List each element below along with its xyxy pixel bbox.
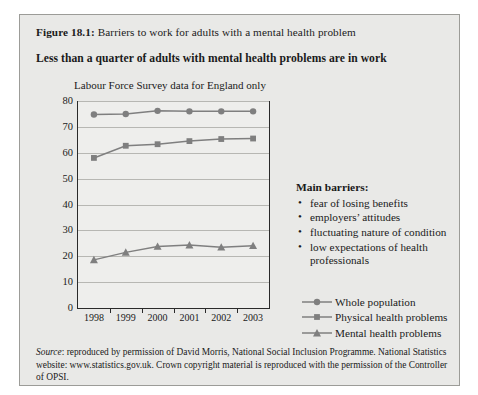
data-point-marker: [250, 108, 256, 114]
x-axis-tick: [237, 308, 238, 313]
legend-label: Whole population: [335, 296, 415, 308]
chart-legend: Whole populationPhysical health problems…: [302, 294, 478, 341]
y-axis-tick-label: 70: [63, 122, 74, 133]
barrier-item-0: fear of losing benefits: [296, 197, 476, 211]
data-point-marker: [314, 314, 320, 320]
x-axis-tick: [142, 308, 143, 313]
x-axis-tick-label: 2002: [211, 313, 231, 323]
series-physical-health-problems: [91, 136, 256, 161]
data-point-marker: [123, 111, 129, 117]
y-axis-tick-label: 40: [63, 199, 74, 210]
data-point-marker: [314, 299, 320, 305]
x-axis-tick-label: 1998: [84, 313, 104, 323]
data-point-marker: [123, 143, 129, 149]
data-point-marker: [155, 141, 161, 147]
legend-item-whole-population: Whole population: [302, 294, 478, 310]
data-point-marker: [218, 108, 224, 114]
barrier-item-1: employers’ attitudes: [296, 211, 476, 225]
y-axis-tick-label: 60: [63, 148, 74, 159]
barrier-item-2: fluctuating nature of condition: [296, 226, 476, 240]
x-axis-tick: [174, 308, 175, 313]
series-mental-health-problems: [90, 241, 257, 263]
data-point-marker: [186, 108, 192, 114]
chart: Labour Force Survey data for England onl…: [28, 79, 290, 329]
legend-label: Mental health problems: [335, 327, 441, 339]
main-barriers-heading: Main barriers:: [296, 181, 476, 195]
y-axis-tick-label: 10: [63, 277, 74, 288]
series-line: [94, 139, 253, 158]
x-axis-tick-label: 1999: [116, 313, 136, 323]
legend-item-mental-health-problems: Mental health problems: [302, 325, 478, 341]
main-barriers-panel: Main barriers: fear of losing benefitsem…: [296, 181, 476, 268]
x-axis-tick-label: 2001: [179, 313, 199, 323]
figure-number: Figure 18.1:: [36, 26, 95, 38]
legend-label: Physical health problems: [335, 311, 447, 323]
x-axis-tick-label: 2003: [243, 313, 263, 323]
x-axis-tick-label: 2000: [148, 313, 168, 323]
figure-container: Figure 18.1: Barriers to work for adults…: [19, 14, 460, 386]
source-text: : reproduced by permission of David Morr…: [36, 347, 447, 382]
y-axis-tick-label: 30: [63, 225, 74, 236]
legend-marker: [302, 326, 332, 340]
source-label: Source: [36, 347, 62, 357]
data-point-marker: [187, 138, 193, 144]
chart-title: Labour Force Survey data for England onl…: [50, 79, 290, 91]
y-axis-tick-label: 50: [63, 173, 74, 184]
y-axis-tick-label: 0: [68, 303, 73, 314]
figure-subtitle: Less than a quarter of adults with menta…: [36, 52, 448, 66]
series-plot: [78, 101, 269, 308]
x-axis-tick: [205, 308, 206, 313]
series-line: [94, 245, 253, 260]
source-note: Source: reproduced by permission of Davi…: [36, 346, 448, 384]
plot-area: 01020304050607080 1998199920002001200220…: [77, 101, 270, 309]
data-point-marker: [154, 108, 160, 114]
figure-caption: Figure 18.1: Barriers to work for adults…: [36, 25, 446, 39]
data-point-marker: [91, 111, 97, 117]
barrier-item-3: low expectations of health professionals: [296, 241, 476, 268]
series-line: [94, 111, 253, 115]
main-barriers-list: fear of losing benefitsemployers’ attitu…: [296, 197, 476, 268]
legend-marker: [302, 310, 332, 324]
data-point-marker: [91, 155, 97, 161]
figure-title-text: Barriers to work for adults with a menta…: [95, 26, 356, 38]
x-axis-tick: [110, 308, 111, 313]
y-axis-tick-label: 20: [63, 251, 74, 262]
series-whole-population: [91, 108, 257, 118]
legend-marker: [302, 295, 332, 309]
data-point-marker: [250, 136, 256, 142]
y-axis-tick-label: 80: [63, 96, 74, 107]
legend-item-physical-health-problems: Physical health problems: [302, 310, 478, 326]
data-point-marker: [218, 136, 224, 142]
